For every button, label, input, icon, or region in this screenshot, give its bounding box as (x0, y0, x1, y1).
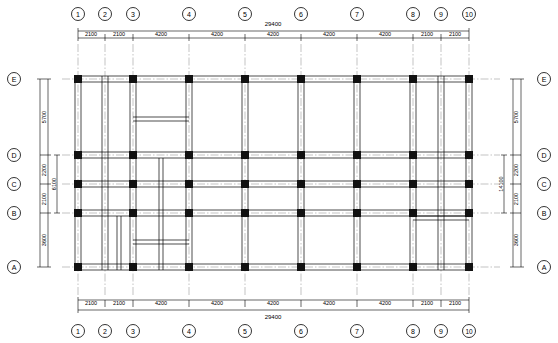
grid-bubble-right-A-label: A (542, 264, 547, 271)
column-7D (353, 151, 361, 159)
column-8B (409, 209, 417, 217)
top-dim-8: 2100 (421, 31, 433, 37)
bottom-dim-5: 4200 (267, 300, 279, 306)
bottom-overall-dim-label: 29400 (265, 314, 282, 320)
grid-bubble-bottom-1-label: 1 (76, 328, 80, 335)
column-7E (353, 75, 361, 83)
top-dim-5: 4200 (267, 31, 279, 37)
column-1D (74, 151, 82, 159)
grid-bubble-bottom-2-label: 2 (103, 328, 107, 335)
column-3E (129, 75, 137, 83)
grid-bubble-bottom-7-label: 7 (355, 328, 359, 335)
column-10A (465, 263, 473, 271)
grid-bubble-left-D-label: D (11, 152, 16, 159)
column-5A (241, 263, 249, 271)
grid-bubble-left-A-label: A (12, 264, 17, 271)
left-dim-4: 3600 (41, 234, 47, 246)
column-3A (129, 263, 137, 271)
column-6A (297, 263, 305, 271)
column-8E (409, 75, 417, 83)
right-dimension-string: 5700 2200 2100 3600 14100 (498, 79, 524, 267)
bottom-dim-7: 4200 (379, 300, 391, 306)
top-dim-3: 4200 (155, 31, 167, 37)
left-dim-1: 5700 (41, 111, 47, 123)
column-1E (74, 75, 82, 83)
grid-bubble-top-6-label: 6 (299, 11, 303, 18)
right-dim-2: 2200 (513, 164, 519, 176)
column-8C (409, 180, 417, 188)
bottom-dim-2: 2100 (113, 300, 125, 306)
beams-vertical (75, 76, 472, 270)
left-dim-2: 2200 (41, 164, 47, 176)
column-7B (353, 209, 361, 217)
grid-bubble-top-4-label: 4 (187, 11, 191, 18)
bottom-dim-1: 2100 (85, 300, 97, 306)
grid-bubble-bottom-4-label: 4 (187, 328, 191, 335)
top-grid-bubbles: 1 2 3 4 5 6 7 8 9 10 (72, 8, 476, 21)
column-3B (129, 209, 137, 217)
grid-bubble-bottom-6-label: 6 (299, 328, 303, 335)
column-10C (465, 180, 473, 188)
column-1A (74, 263, 82, 271)
grid-bubble-top-9-label: 9 (439, 11, 443, 18)
grid-bubble-left-E-label: E (12, 76, 17, 83)
column-4C (185, 180, 193, 188)
grid-bubble-left-C-label: C (11, 181, 16, 188)
top-dim-6: 4200 (323, 31, 335, 37)
top-dim-1: 2100 (85, 31, 97, 37)
top-dim-7: 4200 (379, 31, 391, 37)
top-dim-9: 2100 (449, 31, 461, 37)
column-6E (297, 75, 305, 83)
column-4B (185, 209, 193, 217)
column-6C (297, 180, 305, 188)
top-dimension-string: 29400 2100 2100 4200 4200 4200 4200 4200… (78, 21, 469, 41)
grid-bubble-bottom-9-label: 9 (439, 328, 443, 335)
column-8D (409, 151, 417, 159)
drawing-canvas: 1 2 3 4 5 6 7 8 9 10 29400 2100 (0, 0, 558, 343)
column-4A (185, 263, 193, 271)
column-3D (129, 151, 137, 159)
bottom-grid-bubbles: 1 2 3 4 5 6 7 8 9 10 (72, 325, 476, 338)
left-dimension-string: 5700 2200 2100 3600 6100 (37, 79, 60, 267)
left-dim-3: 2100 (41, 193, 47, 205)
top-dim-4: 4200 (211, 31, 223, 37)
column-6B (297, 209, 305, 217)
top-dim-2: 2100 (113, 31, 125, 37)
grid-bubble-bottom-10-label: 10 (465, 328, 473, 335)
column-5B (241, 209, 249, 217)
column-6D (297, 151, 305, 159)
right-grid-bubbles: E D C B A (538, 73, 551, 274)
grid-bubble-right-E-label: E (542, 76, 547, 83)
bottom-dim-9: 2100 (449, 300, 461, 306)
right-dim-4: 3600 (513, 234, 519, 246)
grid-bubble-bottom-3-label: 3 (131, 328, 135, 335)
grid-bubble-top-5-label: 5 (243, 11, 247, 18)
bottom-dim-4: 4200 (211, 300, 223, 306)
column-5C (241, 180, 249, 188)
column-5E (241, 75, 249, 83)
framing-plan-svg: 1 2 3 4 5 6 7 8 9 10 29400 2100 (0, 0, 558, 343)
column-10D (465, 151, 473, 159)
grid-bubble-bottom-5-label: 5 (243, 328, 247, 335)
grid-bubble-left-B-label: B (12, 210, 17, 217)
bottom-dim-3: 4200 (155, 300, 167, 306)
column-4E (185, 75, 193, 83)
column-7C (353, 180, 361, 188)
grid-bubble-right-D-label: D (541, 152, 546, 159)
grid-bubble-top-1-label: 1 (76, 11, 80, 18)
bottom-dim-6: 4200 (323, 300, 335, 306)
bottom-dim-8: 2100 (421, 300, 433, 306)
grid-bubble-right-C-label: C (541, 181, 546, 188)
column-10E (465, 75, 473, 83)
column-1B (74, 209, 82, 217)
grid-bubble-top-2-label: 2 (103, 11, 107, 18)
grid-bubble-top-3-label: 3 (131, 11, 135, 18)
column-4D (185, 151, 193, 159)
column-3C (129, 180, 137, 188)
column-10B (465, 209, 473, 217)
left-overall-dim-6100: 6100 (51, 178, 57, 190)
column-8A (409, 263, 417, 271)
column-5D (241, 151, 249, 159)
right-dim-1: 5700 (513, 111, 519, 123)
top-overall-dim-label: 29400 (265, 21, 282, 27)
